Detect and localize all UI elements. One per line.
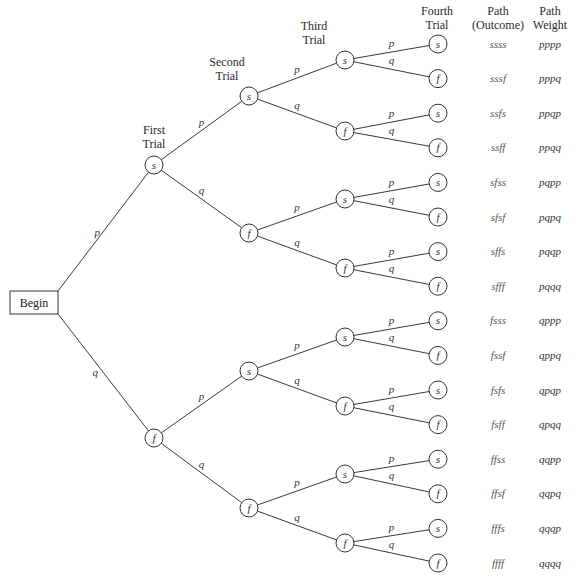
- header-fourth-trial-line1: Fourth: [421, 4, 453, 18]
- path-row: fsssqppp: [490, 314, 561, 326]
- trial4-node-success: s: [429, 312, 447, 330]
- path-weight: pppp: [538, 38, 562, 50]
- path-outcome: fsss: [490, 314, 506, 326]
- edge-label-q: q: [389, 538, 395, 550]
- edge-trial1-to-trial2-failure: [161, 170, 241, 228]
- path-row: sfffpqqq: [491, 280, 561, 292]
- edge-label-q: q: [92, 366, 98, 378]
- node-label: s: [343, 54, 347, 66]
- path-row: fffsqqqp: [491, 522, 561, 534]
- trial3-node-success: s: [336, 465, 354, 483]
- trial4-node-failure: f: [429, 70, 447, 88]
- edge-trial1-to-trial2-success: [161, 376, 241, 433]
- trial3-node-failure: f: [336, 122, 354, 140]
- trial4-node-success: s: [429, 104, 447, 122]
- header-path-outcome-line2: (Outcome): [472, 18, 524, 32]
- path-weight: ppqq: [538, 141, 562, 153]
- header-second-trial-line1: Second: [209, 55, 244, 69]
- trial4-node-success: s: [429, 381, 447, 399]
- header-path-weight-line1: Path: [539, 4, 560, 18]
- path-outcome: ffss: [491, 453, 506, 465]
- edge-label-p: p: [388, 452, 395, 464]
- trial2-node-success: s: [240, 87, 258, 105]
- edge-label-p: p: [388, 107, 395, 119]
- path-weight: ppqp: [538, 107, 562, 119]
- edge-label-q: q: [389, 54, 395, 66]
- trial4-node-failure: f: [429, 139, 447, 157]
- trial3-node-failure: f: [336, 397, 354, 415]
- path-row: ffffqqqq: [492, 557, 562, 569]
- trial4-node-success: s: [429, 173, 447, 191]
- trial4-node-failure: f: [429, 277, 447, 295]
- tree-edges: [58, 46, 429, 562]
- path-outcome: ffsf: [491, 487, 506, 499]
- edge-label-p: p: [94, 226, 101, 238]
- edge-label-q: q: [294, 99, 300, 111]
- begin-node: Begin: [10, 291, 58, 314]
- path-outcome: sffs: [491, 245, 506, 257]
- edge-label-p: p: [388, 521, 395, 533]
- edge-trial1-to-trial2-success: [161, 101, 241, 159]
- path-weight: qqpp: [539, 453, 562, 465]
- begin-label: Begin: [20, 296, 49, 310]
- trial4-node-success: s: [429, 519, 447, 537]
- path-row: sfsfpqpq: [491, 211, 562, 223]
- path-outcome: ssss: [489, 38, 506, 50]
- node-label: s: [436, 453, 440, 465]
- path-outcome: fssf: [491, 349, 508, 361]
- path-row: ffsfqqpq: [491, 487, 561, 499]
- path-row: fsfsqpqp: [491, 384, 562, 396]
- edge-label-p: p: [198, 390, 205, 402]
- trial3-node-failure: f: [336, 534, 354, 552]
- header-third-trial-line1: Third: [301, 19, 328, 33]
- edge-label-q: q: [199, 458, 205, 470]
- path-weight: pqqp: [538, 245, 562, 257]
- header-fourth-trial-line2: Trial: [426, 18, 450, 32]
- path-weight: pqpp: [538, 176, 562, 188]
- trial3-node-success: s: [336, 190, 354, 208]
- edge-label-q: q: [199, 184, 205, 196]
- path-row: ffssqqpp: [491, 453, 562, 465]
- trial4-node-failure: f: [429, 554, 447, 572]
- edge-begin-to-trial1-failure: [58, 314, 148, 431]
- path-outcome: fffs: [491, 522, 504, 534]
- node-label: s: [247, 365, 251, 377]
- path-outcome: sfsf: [491, 211, 508, 223]
- edge-label-p: p: [293, 476, 300, 488]
- header-path-weight-line2: Weight: [533, 18, 568, 32]
- trial2-node-failure: f: [240, 224, 258, 242]
- path-row: sssfpppq: [490, 72, 561, 84]
- trial3-node-failure: f: [336, 259, 354, 277]
- path-outcome: fsfs: [491, 384, 506, 396]
- node-label: s: [343, 331, 347, 343]
- node-label: s: [436, 38, 440, 50]
- path-weight: qqpq: [539, 487, 562, 499]
- path-outcome: sssf: [490, 72, 508, 84]
- header-third-trial-line2: Trial: [303, 33, 327, 47]
- path-outcome: ffff: [492, 557, 506, 569]
- edge-label-p: p: [293, 339, 300, 351]
- path-row: fssfqppq: [491, 349, 562, 361]
- trial1-node-success: s: [145, 156, 163, 174]
- edge-label-q: q: [389, 331, 395, 343]
- trial2-node-failure: f: [240, 499, 258, 517]
- path-weight: pppq: [538, 72, 562, 84]
- edge-label-p: p: [388, 176, 395, 188]
- path-row: ssfsppqp: [490, 107, 561, 119]
- edge-label-q: q: [389, 400, 395, 412]
- path-row: sffspqqp: [491, 245, 562, 257]
- edge-label-q: q: [294, 236, 300, 248]
- node-label: s: [436, 384, 440, 396]
- edge-label-q: q: [294, 374, 300, 386]
- path-weight: qpqq: [539, 418, 562, 430]
- trial3-node-success: s: [336, 328, 354, 346]
- path-outcome: ssfs: [490, 107, 506, 119]
- edge-label-p: p: [388, 383, 395, 395]
- edge-trial1-to-trial2-failure: [161, 443, 242, 502]
- header-first-trial-line1: First: [143, 123, 166, 137]
- path-outcome: ssff: [491, 141, 508, 153]
- trial4-node-success: s: [429, 243, 447, 261]
- trial4-node-failure: f: [429, 485, 447, 503]
- node-label: s: [436, 522, 440, 534]
- path-weight: qqqq: [539, 557, 562, 569]
